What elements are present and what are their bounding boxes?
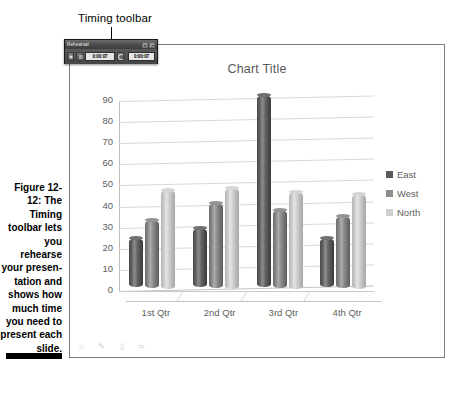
figure-caption-text: The Timing toolbar lets you rehearse you…: [0, 195, 62, 353]
legend-label: West: [397, 188, 418, 199]
bar-west-3rd-qtr: [273, 210, 287, 288]
slides-icon[interactable]: ▯: [117, 342, 126, 351]
x-axis-labels: 1st Qtr2nd Qtr3rd Qtr4th Qtr: [119, 307, 381, 321]
chart-title: Chart Title: [70, 62, 444, 76]
bar-west-1st-qtr: [145, 220, 159, 288]
bar-east-3rd-qtr: [257, 95, 271, 287]
bar-west-4th-qtr: [336, 216, 350, 288]
chevron-down-icon[interactable]: ▾: [142, 42, 148, 48]
legend-label: East: [397, 169, 416, 180]
chart-legend: EastWestNorth: [386, 169, 420, 226]
bar-north-3rd-qtr: [289, 192, 303, 289]
close-icon[interactable]: ✕: [149, 42, 155, 48]
sun-icon[interactable]: ☼: [77, 342, 86, 351]
next-slide-button[interactable]: [67, 52, 74, 61]
y-axis-tick-label: 0: [91, 285, 113, 295]
bar-group: [119, 101, 183, 291]
chart: Chart Title 0102030405060708090 1st Qtr2…: [70, 45, 444, 357]
y-axis-labels: 0102030405060708090: [89, 101, 113, 291]
figure-caption: Figure 12-12: The Timing toolbar lets yo…: [0, 181, 62, 355]
y-axis-tick-label: 70: [91, 137, 113, 147]
y-axis-tick-label: 20: [91, 243, 113, 253]
bar-north-1st-qtr: [161, 190, 175, 289]
pause-button[interactable]: [76, 52, 83, 61]
slide-time-display: 0:00:07: [85, 52, 115, 61]
bar-east-4th-qtr: [320, 238, 334, 287]
repeat-button[interactable]: [117, 52, 124, 61]
total-time-display: 0:00:07: [128, 52, 155, 61]
callout-label: Timing toolbar: [78, 12, 152, 24]
x-axis-tick-label: 3rd Qtr: [251, 307, 315, 318]
chart-plot-area: 0102030405060708090: [119, 101, 374, 291]
bar-west-2nd-qtr: [209, 203, 223, 287]
y-axis-tick-label: 60: [91, 158, 113, 168]
slide-frame: Chart Title 0102030405060708090 1st Qtr2…: [69, 44, 445, 358]
toolbar-titlebar[interactable]: Rehearsal ▾ ✕: [65, 40, 157, 49]
legend-item-west[interactable]: West: [386, 188, 420, 199]
chart-floor-front-edge: [126, 301, 381, 302]
caption-rule: [6, 353, 62, 359]
bar-east-2nd-qtr: [193, 228, 207, 287]
y-axis-tick-label: 10: [91, 264, 113, 274]
x-axis-tick-label: 1st Qtr: [124, 307, 188, 318]
legend-label: North: [397, 207, 420, 218]
status-bar-icons: ☼ ✎ ▯ ⇨: [77, 342, 146, 351]
x-axis-tick-label: 4th Qtr: [315, 307, 379, 318]
legend-swatch-icon: [386, 171, 393, 178]
y-axis-tick-label: 50: [91, 179, 113, 189]
y-axis-tick-label: 80: [91, 116, 113, 126]
bar-east-1st-qtr: [129, 238, 143, 287]
toolbar-body: 0:00:07 0:00:07: [65, 49, 157, 64]
y-axis-tick-label: 30: [91, 222, 113, 232]
pencil-icon[interactable]: ✎: [97, 342, 106, 351]
legend-item-north[interactable]: North: [386, 207, 420, 218]
bar-group: [183, 101, 247, 291]
bar-north-2nd-qtr: [225, 188, 239, 289]
legend-item-east[interactable]: East: [386, 169, 420, 180]
bar-north-4th-qtr: [352, 194, 366, 289]
rehearsal-toolbar[interactable]: Rehearsal ▾ ✕ 0:00:07 0:00:07: [64, 39, 158, 64]
toolbar-title: Rehearsal: [67, 40, 141, 49]
bar-group: [310, 101, 374, 291]
y-axis-tick-label: 90: [91, 95, 113, 105]
legend-swatch-icon: [386, 190, 393, 197]
x-axis-tick-label: 2nd Qtr: [188, 307, 252, 318]
legend-swatch-icon: [386, 209, 393, 216]
bar-group: [247, 101, 311, 291]
y-axis-tick-label: 40: [91, 201, 113, 211]
arrow-icon[interactable]: ⇨: [137, 342, 146, 351]
